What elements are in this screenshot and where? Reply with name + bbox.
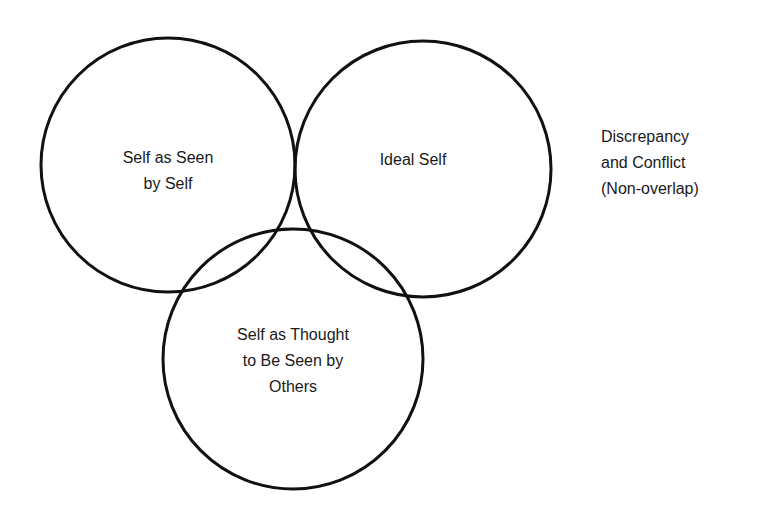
- label-line: Others: [208, 374, 378, 400]
- discrepancy-note: Discrepancy and Conflict (Non-overlap): [601, 124, 741, 202]
- note-line: Discrepancy: [601, 124, 741, 150]
- label-ideal-self: Ideal Self: [358, 147, 468, 173]
- label-line: by Self: [98, 171, 238, 197]
- label-line: Ideal Self: [358, 147, 468, 173]
- note-line: (Non-overlap): [601, 176, 741, 202]
- label-line: Self as Seen: [98, 145, 238, 171]
- label-line: to Be Seen by: [208, 348, 378, 374]
- venn-diagram: [0, 0, 767, 522]
- label-self-as-seen-by-self: Self as Seen by Self: [98, 145, 238, 197]
- note-line: and Conflict: [601, 150, 741, 176]
- label-line: Self as Thought: [208, 322, 378, 348]
- label-self-as-thought-seen-by-others: Self as Thought to Be Seen by Others: [208, 322, 378, 400]
